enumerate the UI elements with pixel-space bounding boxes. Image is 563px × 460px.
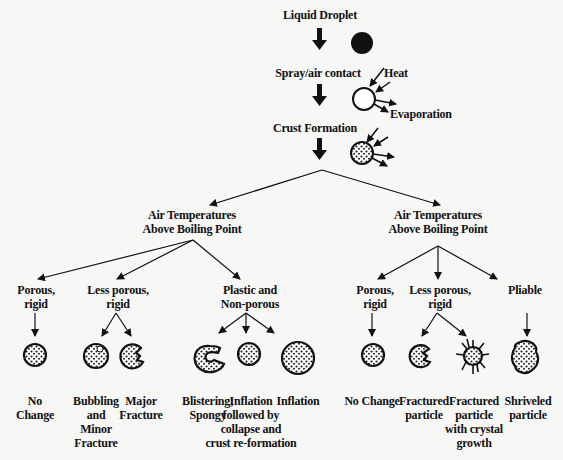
label-heat: Heat — [384, 66, 408, 80]
particle-bubbling-icon — [84, 344, 108, 368]
right-category-porous-rigid: Porous, rigid — [356, 283, 393, 311]
outcome-shriveled-particle: Shriveled particle — [505, 394, 552, 422]
outcome-line: growth — [445, 436, 503, 450]
particle-blistering-icon — [195, 346, 224, 372]
particle-no-change-right-icon — [362, 344, 384, 366]
outcome-line: followed by — [205, 408, 296, 422]
category-line: Less porous, — [409, 283, 470, 297]
right-branch-title-line2: Above Boiling Point — [389, 222, 488, 236]
liquid-droplet-icon — [351, 32, 373, 54]
outcome-line: particle — [445, 408, 503, 422]
category-line: rigid — [356, 297, 393, 311]
left-category-plastic-non-porous: Plastic and Non-porous — [221, 283, 279, 311]
outcome-fractured-crystal-growth: Fractured particle with crystal growth — [445, 394, 503, 450]
category-line: Porous, — [17, 283, 54, 297]
outcome-line: Bubbling — [73, 394, 119, 408]
outcome-line: Minor — [73, 422, 119, 436]
particle-crystal-growth-icon — [456, 339, 489, 374]
outcome-line: Inflation — [277, 394, 320, 408]
particle-shriveled-icon — [512, 341, 538, 373]
label-evaporation: Evaporation — [390, 107, 452, 121]
category-line: Non-porous — [221, 297, 279, 311]
particle-fractured-icon — [410, 345, 430, 367]
right-branch-title: Air Temperatures Above Boiling Point — [389, 208, 488, 236]
outcome-line: No — [16, 394, 54, 408]
crust-droplet-icon — [351, 128, 394, 166]
outcome-line: and — [73, 408, 119, 422]
outcome-bubbling-minor-fracture: Bubbling and Minor Fracture — [73, 394, 119, 450]
outcome-no-change-right: No Change — [344, 394, 399, 408]
thick-down-arrows — [312, 28, 327, 160]
stage-liquid-droplet: Liquid Droplet — [283, 8, 357, 22]
left-branch-title-line1: Air Temperatures — [143, 208, 242, 222]
right-category-less-porous-rigid: Less porous, rigid — [409, 283, 470, 311]
stage-spray-air-contact: Spray/air contact — [275, 66, 360, 80]
outcome-line: Major — [119, 394, 163, 408]
left-branch-title: Air Temperatures Above Boiling Point — [143, 208, 242, 236]
outcome-line: with crystal — [445, 422, 503, 436]
left-branch-title-line2: Above Boiling Point — [143, 222, 242, 236]
outcome-line: particle — [399, 408, 449, 422]
outcome-line: particle — [505, 408, 552, 422]
outcome-line: collapse and — [205, 422, 296, 436]
outcome-no-change: No Change — [16, 394, 54, 422]
outcome-line: Fracture — [119, 408, 163, 422]
outcome-fractured-particle: Fractured particle — [399, 394, 449, 422]
right-branch-title-line1: Air Temperatures — [389, 208, 488, 222]
left-category-porous-rigid: Porous, rigid — [17, 283, 54, 311]
right-category-pliable: Pliable — [508, 283, 542, 297]
branch-connectors — [35, 170, 527, 336]
particle-no-change-icon — [24, 344, 46, 366]
category-line: rigid — [17, 297, 54, 311]
outcome-line: Fractured — [399, 394, 449, 408]
outcome-line: Shriveled — [505, 394, 552, 408]
outcome-line: Fractured — [445, 394, 503, 408]
particle-inflation-icon — [282, 342, 314, 374]
stage-crust-formation: Crust Formation — [273, 121, 357, 135]
outcome-major-fracture: Major Fracture — [119, 394, 163, 422]
category-line: Less porous, — [87, 283, 148, 297]
outcome-line: Change — [16, 408, 54, 422]
category-line: Pliable — [508, 283, 542, 297]
category-line: rigid — [409, 297, 470, 311]
outcome-line: No Change — [344, 394, 399, 408]
outcome-line: Fracture — [73, 436, 119, 450]
category-line: Plastic and — [221, 283, 279, 297]
left-category-less-porous-rigid: Less porous, rigid — [87, 283, 148, 311]
category-line: Porous, — [356, 283, 393, 297]
outcome-inflation: Inflation — [277, 394, 320, 408]
outcome-line: crust re-formation — [205, 436, 296, 450]
category-line: rigid — [87, 297, 148, 311]
particle-major-fracture-icon — [120, 344, 143, 368]
particle-inflation-collapse-icon — [238, 343, 260, 365]
